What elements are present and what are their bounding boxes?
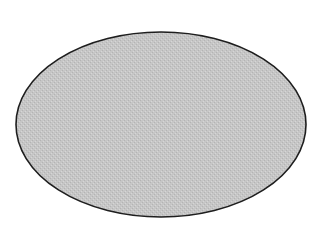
gray-ellipse — [16, 32, 306, 217]
diagram-canvas — [0, 0, 323, 233]
